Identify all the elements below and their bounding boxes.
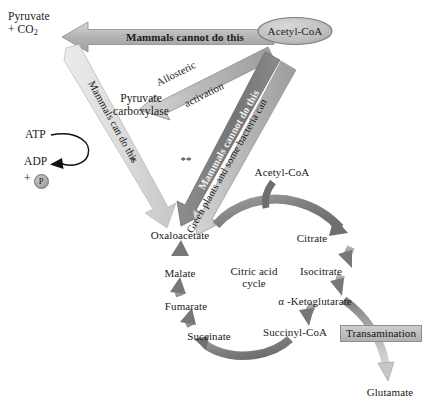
arrow-malate-to-oxaloacetate (171, 240, 189, 262)
node-acetyl-coa-cycle: Acetyl-CoA (255, 166, 310, 178)
node-atp: ATP (25, 128, 46, 141)
node-alpha-ketoglutarate: α -Ketoglutarate (278, 295, 352, 307)
node-succinate: Succinate (187, 330, 231, 342)
node-co2-line: + CO2 (8, 23, 38, 35)
label-citric-acid-cycle: Citric acid cycle (230, 265, 277, 290)
phosphate-circle-icon: P (34, 174, 49, 189)
node-pyruvate-co2: Pyruvate + CO2 (8, 10, 50, 37)
node-acetyl-coa-top: Acetyl-CoA (268, 25, 323, 37)
node-isocitrate: Isocitrate (300, 265, 342, 277)
node-adp: ADP (24, 155, 47, 168)
label-mammals-cannot-do-this-top: Mammals cannot do this (126, 31, 244, 43)
arrow-isocitrate-to-alpha-ketoglutarate (330, 275, 344, 296)
arrow-atp-to-adp (50, 134, 89, 169)
node-citrate: Citrate (297, 232, 328, 244)
node-glutamate: Glutamate (367, 386, 414, 398)
node-succinyl-coa: Succinyl-CoA (263, 326, 327, 338)
node-phosphate-group: + P (24, 172, 49, 189)
node-pyruvate-line1: Pyruvate (8, 10, 50, 22)
pathway-diagram-canvas (0, 0, 439, 414)
arrow-oxaloacetate-to-citrate (216, 199, 348, 236)
node-malate: Malate (164, 267, 195, 279)
arrow-fumarate-to-malate (170, 277, 186, 296)
footnote-marker-single: * (130, 154, 136, 166)
node-oxaloacetate: Oxaloacetate (151, 229, 210, 241)
node-pyruvate-carboxylase: Pyruvate carboxylase (113, 92, 169, 118)
arrow-alpha-ketoglutarate-to-succinyl-coa (299, 304, 314, 326)
label-transamination: Transamination (340, 325, 422, 342)
node-fumarate: Fumarate (165, 300, 207, 312)
footnote-marker-double: ** (180, 154, 191, 166)
